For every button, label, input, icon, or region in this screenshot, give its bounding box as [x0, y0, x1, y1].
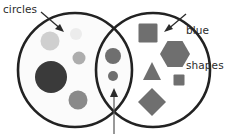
circle-gray-bottom	[69, 91, 88, 110]
square-large	[139, 24, 158, 43]
circle-intersection-upper	[105, 48, 121, 64]
blue-shapes-label: blue shapes	[186, 2, 224, 94]
circle-mid-gray-small	[73, 52, 86, 65]
triangle	[143, 62, 161, 80]
circle-light-gray-medium	[41, 32, 60, 51]
circles-label: circles	[3, 4, 37, 16]
circle-intersection-lower	[108, 71, 118, 81]
diamond	[138, 88, 166, 116]
venn-diagram-figure: circles blue shapes	[0, 0, 227, 134]
square-small	[174, 75, 185, 86]
blue-shapes-label-line2: shapes	[186, 60, 224, 72]
circle-dark-large	[35, 61, 67, 93]
circle-very-light-small	[70, 28, 82, 40]
blue-shapes-label-line1: blue	[186, 25, 224, 37]
